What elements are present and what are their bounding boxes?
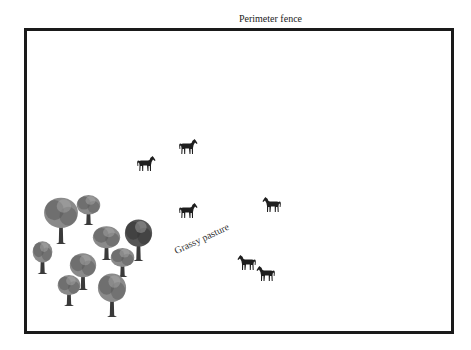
horse-icon	[136, 155, 156, 172]
fence-label: Perimeter fence	[0, 13, 471, 24]
horse-icon	[178, 202, 198, 219]
tree-icon	[43, 196, 79, 244]
horse-icon	[178, 138, 198, 155]
horse-icon	[262, 196, 282, 213]
tree-icon	[32, 240, 53, 274]
horse-icon	[256, 265, 276, 282]
tree-icon	[76, 194, 101, 225]
tree-icon	[57, 274, 81, 306]
tree-icon	[97, 272, 127, 317]
horse-icon	[237, 254, 257, 271]
